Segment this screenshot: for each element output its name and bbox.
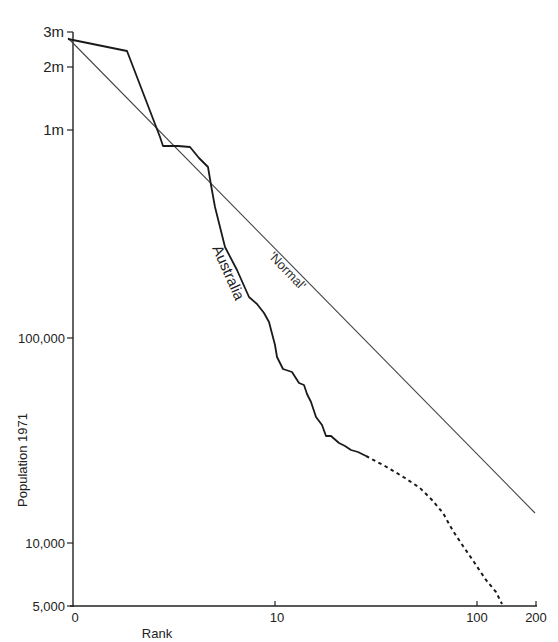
y-tick-100000: 100,000 — [18, 331, 65, 346]
axes — [70, 32, 537, 607]
australia-series-label: Australia — [209, 242, 249, 303]
y-tick-10000: 10,000 — [25, 536, 65, 551]
y-tick-5000: 5,000 — [32, 599, 65, 614]
x-tick-labels: 0 10 100 200 — [71, 610, 546, 625]
y-tick-1m: 1m — [43, 121, 64, 138]
x-tick-10: 10 — [270, 610, 284, 625]
australia-series-dashed-line — [366, 456, 502, 604]
x-ticks — [275, 601, 536, 606]
y-axis-title: Population 1971 — [15, 413, 30, 507]
y-tick-3m: 3m — [43, 23, 64, 40]
rank-size-chart: 3m 2m 1m 100,000 10,000 5,000 0 10 100 2… — [0, 0, 558, 642]
x-tick-200: 200 — [525, 610, 547, 625]
x-tick-100: 100 — [466, 610, 488, 625]
y-tick-labels: 3m 2m 1m 100,000 10,000 5,000 — [18, 23, 65, 614]
x-axis-title: Rank — [142, 626, 173, 641]
y-tick-2m: 2m — [43, 58, 64, 75]
normal-series-label: 'Normal' — [266, 249, 309, 293]
x-tick-0: 0 — [71, 610, 78, 625]
y-ticks — [67, 32, 73, 606]
